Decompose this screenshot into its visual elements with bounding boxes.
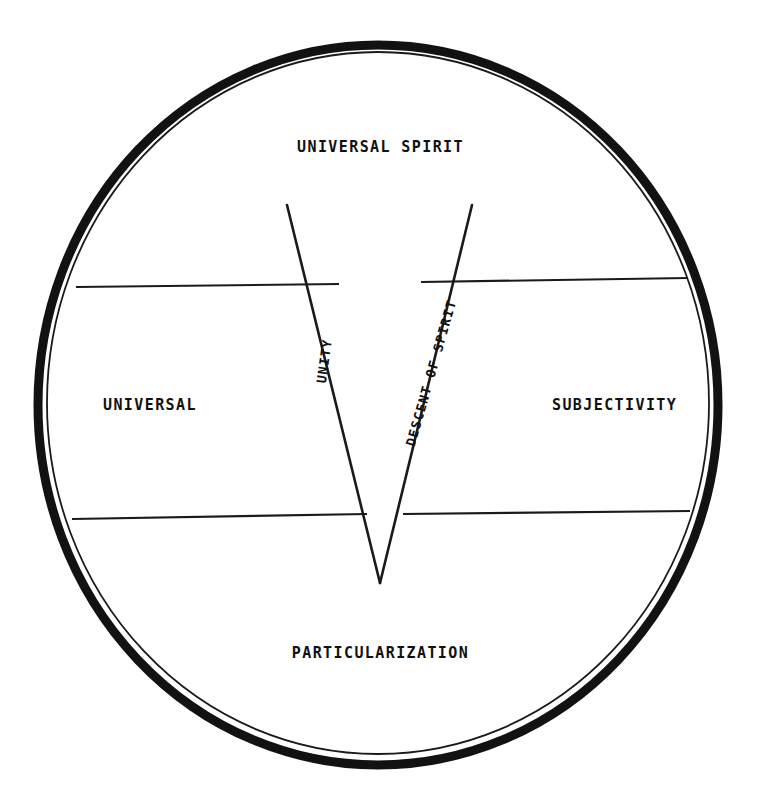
diagram-canvas: UNIVERSAL SPIRIT UNIVERSAL SUBJECTIVITY … bbox=[0, 0, 761, 793]
divider-upper-right bbox=[421, 278, 688, 282]
label-particularization: PARTICULARIZATION bbox=[0, 646, 761, 661]
divider-upper-left bbox=[76, 284, 339, 287]
label-universal: UNIVERSAL bbox=[103, 398, 197, 413]
divider-lower-right bbox=[403, 511, 690, 514]
divider-lower-left bbox=[72, 514, 367, 519]
wedge-left-edge bbox=[287, 205, 380, 583]
label-universal-spirit: UNIVERSAL SPIRIT bbox=[0, 140, 761, 155]
label-subjectivity: SUBJECTIVITY bbox=[552, 398, 677, 413]
